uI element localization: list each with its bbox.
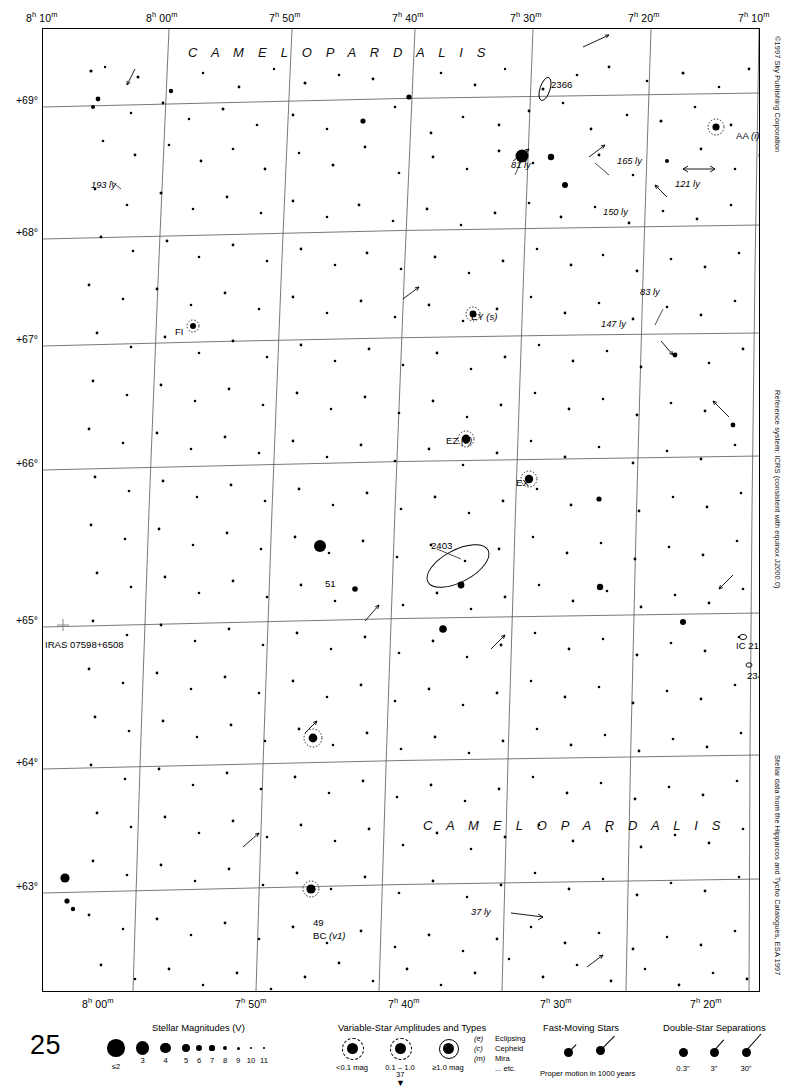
legend-page-pointer-arrow: ▼ [396,1080,405,1086]
star-chart-page: C A M E L O P A R D A L I S C A M E L O … [0,0,798,1088]
legend-double-caption-1: 3" [698,1064,730,1073]
legend-magnitude-caption-0: ≤2 [102,1062,130,1071]
legend-magnitude-dot-5 [209,1045,214,1050]
variable-star-label-aa: AA (i) [736,130,759,141]
legend-magnitude-dot-1 [136,1041,150,1055]
legend-double-caption-2: 30" [730,1064,762,1073]
legend-double-sep-line-1 [714,1040,724,1051]
legend-magnitude-dot-7 [237,1047,240,1050]
legend-type-code-1: (c) [474,1044,483,1053]
ra-tick-bottom-3: 7h 30m [540,996,572,1010]
distance-label-83ly: 83 ly [640,287,660,297]
dec-tick-4: +65° [0,614,38,626]
legend-type-name-1: Cepheid [495,1044,523,1053]
constellation-label-top: C A M E L O P A R D A L I S [188,45,491,60]
legend-fast-vector-1 [600,1036,615,1051]
legend-magnitude-dot-4 [196,1045,203,1052]
ra-tick-bottom-4: 7h 20m [690,996,722,1010]
distance-label-37ly: 37 ly [471,907,491,917]
ra-tick-top-0: 8h 10m [26,10,58,24]
legend-variable-dot-1 [395,1043,406,1054]
legend: Stellar Magnitudes (V) Variable-Star Amp… [0,1012,798,1088]
legend-variable-caption-2: ≥1.0 mag [426,1063,470,1072]
legend-title-magnitudes: Stellar Magnitudes (V) [152,1022,245,1033]
legend-magnitude-dot-3 [182,1044,190,1052]
dec-tick-2: +67° [0,333,38,345]
legend-title-double-stars: Double-Star Separations [663,1022,766,1033]
distance-label-150ly: 150 ly [603,207,628,217]
legend-magnitude-dot-9 [263,1047,265,1049]
legend-variable-caption-0: <0.1 mag [330,1063,374,1072]
object-label-2403: 2403 [431,540,452,551]
flamsteed-label-51: 51 [325,578,336,589]
variable-star-label-bc: BC (v1) [313,930,346,941]
distance-label-121ly: 121 ly [675,179,700,189]
dec-tick-1: +68° [0,226,38,238]
legend-proper-motion-caption: Proper motion in 1000 years [540,1069,635,1078]
legend-type-code-2: (m) [474,1054,485,1063]
data-credit-text: Stellar data from the Hipparcos and Tych… [773,755,782,976]
distance-label-165ly: 165 ly [617,156,642,166]
distance-label-193ly: 193 ly [91,180,116,190]
ra-tick-top-1: 8h 00m [146,10,178,24]
variable-star-label-ez: EZ (s) [446,435,472,446]
object-label-2347: 2347 [747,670,760,681]
iras-source-label: IRAS 07598+6508 [45,639,124,650]
flamsteed-label-49: 49 [313,917,324,928]
distance-label-81ly: 81 ly [511,160,531,170]
legend-double-sep-line-2 [746,1034,761,1051]
legend-double-star-0 [679,1048,688,1057]
constellation-label-bottom: C A M E L O P A R D A L I S [423,818,726,833]
legend-magnitude-dot-2 [160,1043,171,1054]
legend-variable-dot-2 [443,1043,454,1054]
legend-magnitude-dot-0 [107,1039,125,1057]
chart-plot-area: C A M E L O P A R D A L I S C A M E L O … [42,28,760,992]
object-label-ic2179: IC 2179 [736,640,760,651]
ra-tick-bottom-1: 7h 50m [235,996,267,1010]
dec-tick-5: +64° [0,756,38,768]
legend-type-name-2: Mira [495,1054,510,1063]
legend-title-variables: Variable-Star Amplitudes and Types [338,1022,486,1033]
star-field [43,29,759,991]
legend-magnitude-caption-9: 11 [250,1056,278,1065]
legend-type-name-3: ... etc. [495,1064,516,1073]
legend-variable-dot-0 [347,1043,358,1054]
legend-title-fast-moving: Fast-Moving Stars [543,1022,619,1033]
ra-tick-bottom-0: 8h 00m [82,996,114,1010]
legend-magnitude-dot-8 [250,1047,252,1049]
copyright-text: ©1997 Sky Publishing Corporation [773,36,782,152]
legend-type-name-0: Eclipsing [495,1034,525,1043]
ra-tick-bottom-2: 7h 40m [388,996,420,1010]
object-label-2366: 2366 [551,79,572,90]
dec-tick-6: +63° [0,880,38,892]
legend-double-caption-0: 0.3" [667,1064,699,1073]
reference-system-text: Reference system: ICRS (consistent with … [773,390,782,589]
variable-star-label-ex: EX [516,477,529,488]
ra-tick-top-2: 7h 50m [269,10,301,24]
ra-tick-top-3: 7h 40m [392,10,424,24]
legend-type-code-0: (e) [474,1034,483,1043]
variable-star-label-fi: FI [175,326,184,337]
distance-label-147ly: 147 ly [601,319,626,329]
legend-magnitude-dot-6 [223,1046,227,1050]
ra-tick-top-4: 7h 30m [510,10,542,24]
ra-tick-top-5: 7h 20m [628,10,660,24]
dec-tick-3: +66° [0,457,38,469]
ra-tick-top-6: 7h 10m [738,10,770,24]
dec-tick-0: +69° [0,94,38,106]
variable-star-label-ey: EY (s) [471,311,497,322]
